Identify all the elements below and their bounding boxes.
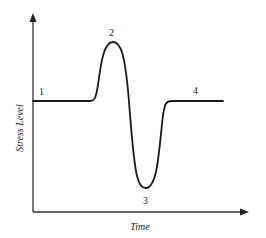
x-axis [33, 209, 249, 216]
x-axis-label: Time [130, 221, 150, 232]
point-label-1: 1 [39, 86, 44, 97]
point-label-4: 4 [193, 85, 198, 96]
stress-curve-chart: 1 2 3 4 Time Stress Level [0, 0, 266, 238]
y-axis-arrow-icon [30, 13, 37, 22]
stress-curve [33, 42, 223, 188]
y-axis [30, 13, 37, 212]
point-label-2: 2 [109, 27, 114, 38]
x-axis-arrow-icon [240, 209, 249, 216]
y-axis-label: Stress Level [14, 104, 25, 152]
point-label-3: 3 [143, 195, 148, 206]
